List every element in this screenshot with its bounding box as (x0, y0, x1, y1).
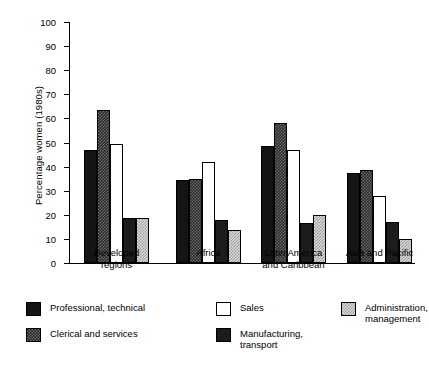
legend-label: Manufacturing, transport (240, 328, 303, 350)
legend-item[interactable]: Administration, management (341, 302, 428, 324)
chart-legend: Professional, technicalClerical and serv… (26, 302, 418, 364)
y-tick-label: 50 (45, 137, 56, 148)
legend-item[interactable]: Manufacturing, transport (216, 328, 303, 350)
bar-group (84, 22, 149, 263)
bar-chart: Percentage women (1980s) 100908070605040… (0, 0, 429, 380)
bar (84, 150, 97, 263)
category-label-line: Asia and Pacific (320, 247, 429, 259)
y-tick-label-wrap: 30 (64, 191, 65, 192)
y-tick-label: 40 (45, 161, 56, 172)
bar-group (261, 22, 326, 263)
y-tick-label: 30 (45, 185, 56, 196)
y-tick-label-wrap: 40 (64, 167, 65, 168)
legend-swatch-icon (216, 302, 231, 316)
legend-label: Professional, technical (50, 302, 145, 313)
bar-group (347, 22, 412, 263)
bar (261, 146, 274, 263)
legend-swatch-icon (26, 328, 41, 342)
legend-swatch-icon (26, 302, 41, 316)
y-tick-label: 80 (45, 65, 56, 76)
category-label-line: and Caribbean (234, 259, 354, 271)
y-tick-label: 10 (45, 233, 56, 244)
legend-label: Sales (240, 302, 264, 313)
legend-item[interactable]: Professional, technical (26, 302, 145, 316)
y-axis-title: Percentage women (1980s) (33, 46, 44, 246)
y-tick-label: 60 (45, 113, 56, 124)
bar (97, 110, 110, 263)
y-tick-label: 70 (45, 89, 56, 100)
legend-label: Administration, management (365, 302, 428, 324)
legend-label: Clerical and services (50, 328, 138, 339)
legend-swatch-icon (341, 302, 356, 316)
y-tick-label: 90 (45, 41, 56, 52)
bar (110, 144, 123, 263)
y-tick-label: 100 (40, 17, 56, 28)
y-tick-label-wrap: 80 (64, 70, 65, 71)
y-tick-label-wrap: 100 (64, 22, 65, 23)
category-label-line: regions (57, 259, 177, 271)
plot-area: 1009080706050403020100 (69, 22, 415, 263)
y-tick-label: 0 (51, 258, 56, 269)
y-tick-label: 20 (45, 209, 56, 220)
legend-item[interactable]: Clerical and services (26, 328, 138, 342)
legend-item[interactable]: Sales (216, 302, 264, 316)
bar (287, 150, 300, 263)
bar-group (176, 22, 241, 263)
category-label: Asia and Pacific (320, 247, 429, 259)
y-tick-label-wrap: 60 (64, 118, 65, 119)
y-tick-label-wrap: 10 (64, 239, 65, 240)
bar (274, 123, 287, 263)
y-tick-label-wrap: 20 (64, 215, 65, 216)
y-axis-line (69, 22, 70, 263)
y-tick-label-wrap: 70 (64, 94, 65, 95)
y-tick-label-wrap: 90 (64, 46, 65, 47)
y-tick-label-wrap: 50 (64, 143, 65, 144)
legend-swatch-icon (216, 328, 231, 342)
